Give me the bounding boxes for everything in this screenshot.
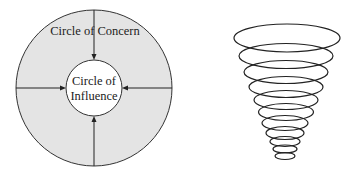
circle-of-concern-diagram: Circle of Concern Circle of Influence <box>16 10 172 166</box>
ring-7 <box>262 116 308 131</box>
ring-8 <box>266 127 304 140</box>
outer-label: Circle of Concern <box>50 24 140 38</box>
inner-label-line2: Influence <box>70 89 118 103</box>
inner-label-line1: Circle of <box>72 74 117 88</box>
spiral-cone-diagram <box>234 24 340 160</box>
figure: Circle of Concern Circle of Influence <box>0 0 355 178</box>
inner-circle <box>66 60 122 116</box>
